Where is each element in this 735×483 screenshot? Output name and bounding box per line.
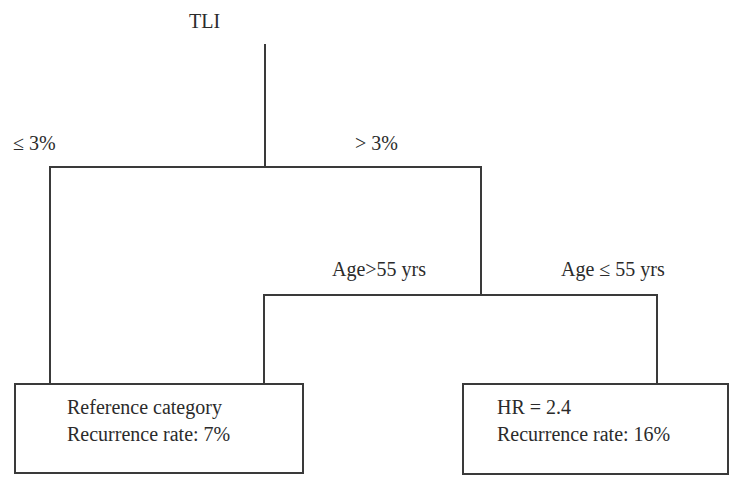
leaf-hr-value: HR = 2.4 bbox=[497, 395, 571, 419]
leaf-reference-recurrence-rate: Recurrence rate: 7% bbox=[67, 422, 230, 446]
decision-tree-diagram: TLI ≤ 3% > 3% Age>55 yrs Age ≤ 55 yrs Re… bbox=[0, 0, 735, 483]
age-split-line bbox=[263, 294, 658, 296]
leaf-hr-recurrence-rate: Recurrence rate: 16% bbox=[497, 422, 670, 446]
branch-label-age-low: Age ≤ 55 yrs bbox=[561, 258, 665, 280]
branch-label-tli-high: > 3% bbox=[355, 132, 398, 154]
leaf-reference-title: Reference category bbox=[67, 395, 222, 419]
root-stem-line bbox=[264, 44, 266, 168]
age-low-branch-line bbox=[656, 294, 658, 384]
leaf-box-reference-category: Reference category Recurrence rate: 7% bbox=[14, 383, 304, 474]
leaf-box-hr: HR = 2.4 Recurrence rate: 16% bbox=[462, 383, 729, 475]
branch-label-tli-low: ≤ 3% bbox=[13, 132, 56, 154]
tli-high-branch-line bbox=[480, 166, 482, 296]
tli-low-branch-line bbox=[49, 166, 51, 384]
tli-split-line bbox=[49, 166, 482, 168]
age-high-branch-line bbox=[263, 294, 265, 384]
branch-label-age-high: Age>55 yrs bbox=[332, 258, 426, 280]
root-label-tli: TLI bbox=[189, 10, 220, 32]
